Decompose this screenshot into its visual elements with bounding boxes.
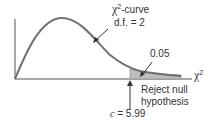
df-label: d.f. = 2 (114, 17, 145, 28)
arrow-up-icon (127, 80, 133, 86)
x-axis-label: χ2 (194, 70, 203, 81)
curve-label: χ2-curve (112, 4, 149, 15)
reject-label-line1: Reject null (141, 84, 188, 95)
curve-label-arrow (96, 29, 108, 40)
tail-area-label: 0.05 (150, 48, 169, 59)
critical-value-label: c = 5.99 (110, 108, 145, 119)
reject-label-line2: hypothesis (141, 96, 189, 107)
